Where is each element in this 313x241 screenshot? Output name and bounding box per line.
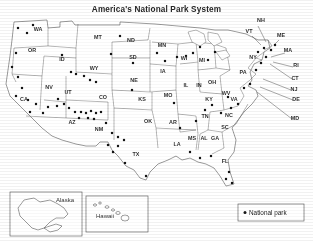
park-dot [263, 47, 266, 50]
state-label-ma: MA [284, 47, 292, 53]
state-label-va: VA [230, 96, 237, 102]
park-dot [199, 46, 202, 49]
state-label-wi: WI [181, 55, 188, 61]
park-dot [270, 49, 273, 52]
park-dot [35, 103, 38, 106]
park-dot [176, 56, 179, 59]
state-label-ms: MS [188, 135, 196, 141]
state-label-al: AL [200, 135, 208, 141]
leader-line-ma [271, 53, 285, 57]
park-dot [110, 53, 113, 56]
park-dot [107, 144, 110, 147]
state-label-fl: FL [222, 158, 229, 164]
state-label-me: ME [277, 32, 285, 38]
park-dot [214, 51, 217, 54]
park-dot [100, 111, 103, 114]
state-label-wy: WY [90, 65, 99, 71]
park-dot [21, 87, 24, 90]
state-label-ks: KS [138, 96, 146, 102]
us-map-svg: WAORCANVIDMTWYUTAZNMCONDSDNEKSOKTXMNIAMO… [0, 0, 313, 241]
park-dot [112, 151, 115, 154]
hawaii-inset: Hawaii [86, 196, 148, 232]
park-dot [57, 98, 60, 101]
park-dot [164, 60, 167, 63]
park-dot [29, 111, 32, 114]
state-label-nm: NM [95, 126, 104, 132]
state-label-md: MD [291, 115, 299, 121]
state-label-in: IN [196, 82, 201, 88]
state-label-pa: PA [239, 69, 246, 75]
park-dot [56, 105, 59, 108]
park-dot [15, 95, 18, 98]
park-dot [211, 104, 214, 107]
park-dot [17, 27, 20, 30]
state-label-tx: TX [133, 151, 140, 157]
legend-label: National park [249, 209, 287, 217]
park-dot [70, 71, 73, 74]
state-label-ca: CA [20, 96, 28, 102]
park-dot [237, 103, 240, 106]
legend-box: National park [238, 204, 304, 221]
park-dot [80, 111, 83, 114]
park-dot [274, 44, 277, 47]
park-dot [249, 83, 252, 86]
state-label-mt: MT [94, 34, 102, 40]
state-label-id: ID [59, 56, 64, 62]
park-dot [265, 56, 268, 59]
park-dot [123, 139, 126, 142]
park-dot [47, 106, 50, 109]
state-label-nj: NJ [291, 86, 298, 92]
alaska-inset: Alaska [10, 192, 82, 236]
park-dot [83, 75, 86, 78]
state-label-co: CO [99, 94, 107, 100]
park-dot [111, 132, 114, 135]
state-label-az: AZ [68, 119, 76, 125]
park-dot [124, 162, 127, 165]
park-dot [189, 151, 192, 154]
state-label-ia: IA [160, 68, 165, 74]
park-dot [199, 157, 202, 160]
park-dot [78, 117, 81, 120]
park-dot [243, 87, 246, 90]
state-label-de: DE [292, 96, 300, 102]
state-label-mn: MN [158, 42, 166, 48]
leader-line-ri [273, 62, 293, 67]
park-dot [131, 89, 134, 92]
state-label-or: OR [28, 47, 36, 53]
park-dot [93, 118, 96, 121]
legend-dot-icon [244, 211, 247, 214]
park-dot [225, 178, 228, 181]
leader-line-nj [263, 79, 291, 90]
park-dot [87, 117, 90, 120]
map-canvas: America's National Park System [0, 0, 313, 241]
state-label-nc: NC [225, 112, 233, 118]
park-dot [260, 62, 263, 65]
park-dot [74, 111, 77, 114]
park-dot [90, 110, 93, 113]
state-label-ga: GA [211, 135, 219, 141]
park-dot [179, 127, 182, 130]
state-label-nv: NV [45, 84, 53, 90]
park-dot [132, 62, 135, 65]
park-dot [117, 136, 120, 139]
state-label-ok: OK [144, 118, 152, 124]
park-dot [11, 66, 14, 69]
park-dot [119, 35, 122, 38]
state-label-wv: WV [222, 90, 231, 96]
park-dot [42, 112, 45, 115]
park-dot [95, 112, 98, 115]
park-dot [227, 96, 230, 99]
state-label-ar: AR [169, 119, 177, 125]
park-dot [85, 112, 88, 115]
hawaii-label: Hawaii [96, 213, 114, 219]
park-dot [26, 32, 29, 35]
state-label-ky: KY [205, 96, 213, 102]
park-dot [210, 155, 213, 158]
park-dot [204, 109, 207, 112]
state-label-nh: NH [257, 17, 265, 23]
state-label-il: IL [184, 82, 189, 88]
park-dot [230, 107, 233, 110]
leader-line-ct [270, 64, 292, 79]
state-label-nd: ND [127, 37, 135, 43]
park-dot [63, 103, 66, 106]
